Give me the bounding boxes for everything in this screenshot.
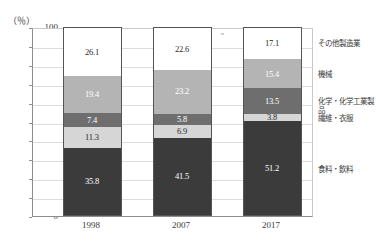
segment-value-label: 51.2 (265, 164, 279, 173)
segment-value-label: 7.4 (87, 116, 97, 125)
segment-value-label: 5.8 (177, 115, 187, 124)
bar-segment[interactable]: 13.5 (243, 88, 302, 114)
segment-value-label: 13.5 (265, 97, 279, 106)
x-axis-tick-label-1998: 1998 (56, 220, 126, 230)
bar-segment[interactable]: 19.4 (63, 76, 122, 113)
bar-segment[interactable]: 51.2 (243, 121, 302, 216)
bar-segment[interactable]: 35.8 (63, 148, 122, 216)
x-axis-tick-label-2017: 2017 (236, 220, 306, 230)
legend-label-series_machine: 機械 (318, 70, 376, 79)
bar-segment[interactable]: 15.4 (243, 59, 302, 88)
bar-2007[interactable]: 41.56.95.823.222.6 (153, 27, 212, 216)
segment-value-label: 26.1 (85, 48, 99, 57)
bar-segment[interactable]: 6.9 (153, 125, 212, 138)
y-axis-unit-label: （％） (8, 14, 35, 27)
segment-value-label: 15.4 (265, 70, 279, 79)
segment-value-label: 23.2 (175, 87, 189, 96)
artifact-speck (221, 33, 224, 35)
legend-label-series_food: 食料・飲料 (318, 165, 376, 174)
segment-value-label: 17.1 (265, 39, 279, 48)
x-axis-tick-label-2007: 2007 (146, 220, 216, 230)
bar-segment[interactable]: 3.8 (243, 114, 302, 121)
bar-segment[interactable]: 7.4 (63, 113, 122, 127)
segment-value-label: 22.6 (175, 45, 189, 54)
plot-area: 35.811.37.419.426.141.56.95.823.222.651.… (32, 28, 313, 217)
segment-value-label: 3.8 (267, 114, 277, 121)
legend-label-series_other: その他製造業 (318, 39, 376, 48)
segment-value-label: 19.4 (85, 90, 99, 99)
segment-value-label: 11.3 (85, 133, 99, 142)
bar-segment[interactable]: 22.6 (153, 27, 212, 70)
bar-segment[interactable]: 23.2 (153, 70, 212, 114)
segment-value-label: 6.9 (177, 127, 187, 136)
faint-title-strip (0, 0, 376, 13)
segment-value-label: 35.8 (85, 177, 99, 186)
bar-segment[interactable]: 41.5 (153, 138, 212, 216)
bar-1998[interactable]: 35.811.37.419.426.1 (63, 27, 122, 216)
legend-label-series_chem: 化学・化学工業製品 (318, 97, 376, 115)
bar-segment[interactable]: 17.1 (243, 27, 302, 59)
segment-value-label: 41.5 (175, 172, 189, 181)
bar-2017[interactable]: 51.23.813.515.417.1 (243, 27, 302, 216)
bar-segment[interactable]: 26.1 (63, 27, 122, 76)
legend-label-series_textile: 繊維・衣服 (318, 114, 376, 123)
legend: その他製造業機械化学・化学工業製品繊維・衣服食料・飲料 (318, 28, 376, 217)
bar-segment[interactable]: 11.3 (63, 127, 122, 148)
bar-segment[interactable]: 5.8 (153, 114, 212, 125)
y-axis-tick-mark (29, 217, 32, 218)
